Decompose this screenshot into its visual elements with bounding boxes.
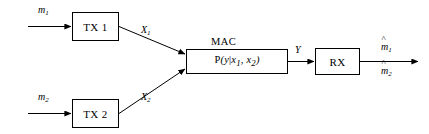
signal-label-y: Y [295, 44, 301, 55]
block-tx2-label: TX 2 [83, 108, 108, 120]
signal-x2-sub: 2 [147, 96, 151, 104]
hat-accent-1: ^ [382, 35, 386, 44]
signal-mhat2-sub: 2 [388, 70, 392, 78]
signal-label-x1: X1 [141, 24, 151, 37]
mac-formula-close: ) [256, 54, 260, 65]
m-hat-1-wrap: ^m [381, 41, 388, 52]
m-hat-2-wrap: ^m [381, 65, 388, 76]
block-tx1[interactable]: TX 1 [72, 12, 119, 41]
mac-caption: MAC [211, 36, 236, 47]
signal-x1-sub: 1 [147, 29, 151, 37]
block-rx-label: RX [329, 56, 345, 68]
mac-transition-probability: P(y|x1, x2) [214, 54, 259, 68]
signal-label-m-hat-1: ^m1 [381, 41, 392, 54]
signal-m2-sub: 2 [45, 96, 49, 104]
block-mac-channel[interactable]: P(y|x1, x2) [186, 49, 288, 74]
signal-label-m-hat-2: ^m2 [381, 65, 392, 78]
signal-y-base: Y [295, 44, 301, 55]
mac-block-diagram: TX 1 TX 2 P(y|x1, x2) RX MAC m1 m2 X1 X2… [0, 0, 429, 134]
signal-label-m1: m1 [38, 4, 49, 17]
signal-mhat1-sub: 1 [388, 46, 392, 54]
block-tx2[interactable]: TX 2 [72, 99, 119, 128]
signal-m1-sub: 1 [45, 9, 49, 17]
signal-label-m2: m2 [38, 91, 49, 104]
signal-label-x2: X2 [141, 91, 151, 104]
block-rx[interactable]: RX [315, 48, 360, 75]
block-tx1-label: TX 1 [83, 21, 108, 33]
wire-tx1-to-mac [119, 27, 185, 55]
hat-accent-2: ^ [382, 59, 386, 68]
wire-tx2-to-mac [119, 69, 185, 114]
